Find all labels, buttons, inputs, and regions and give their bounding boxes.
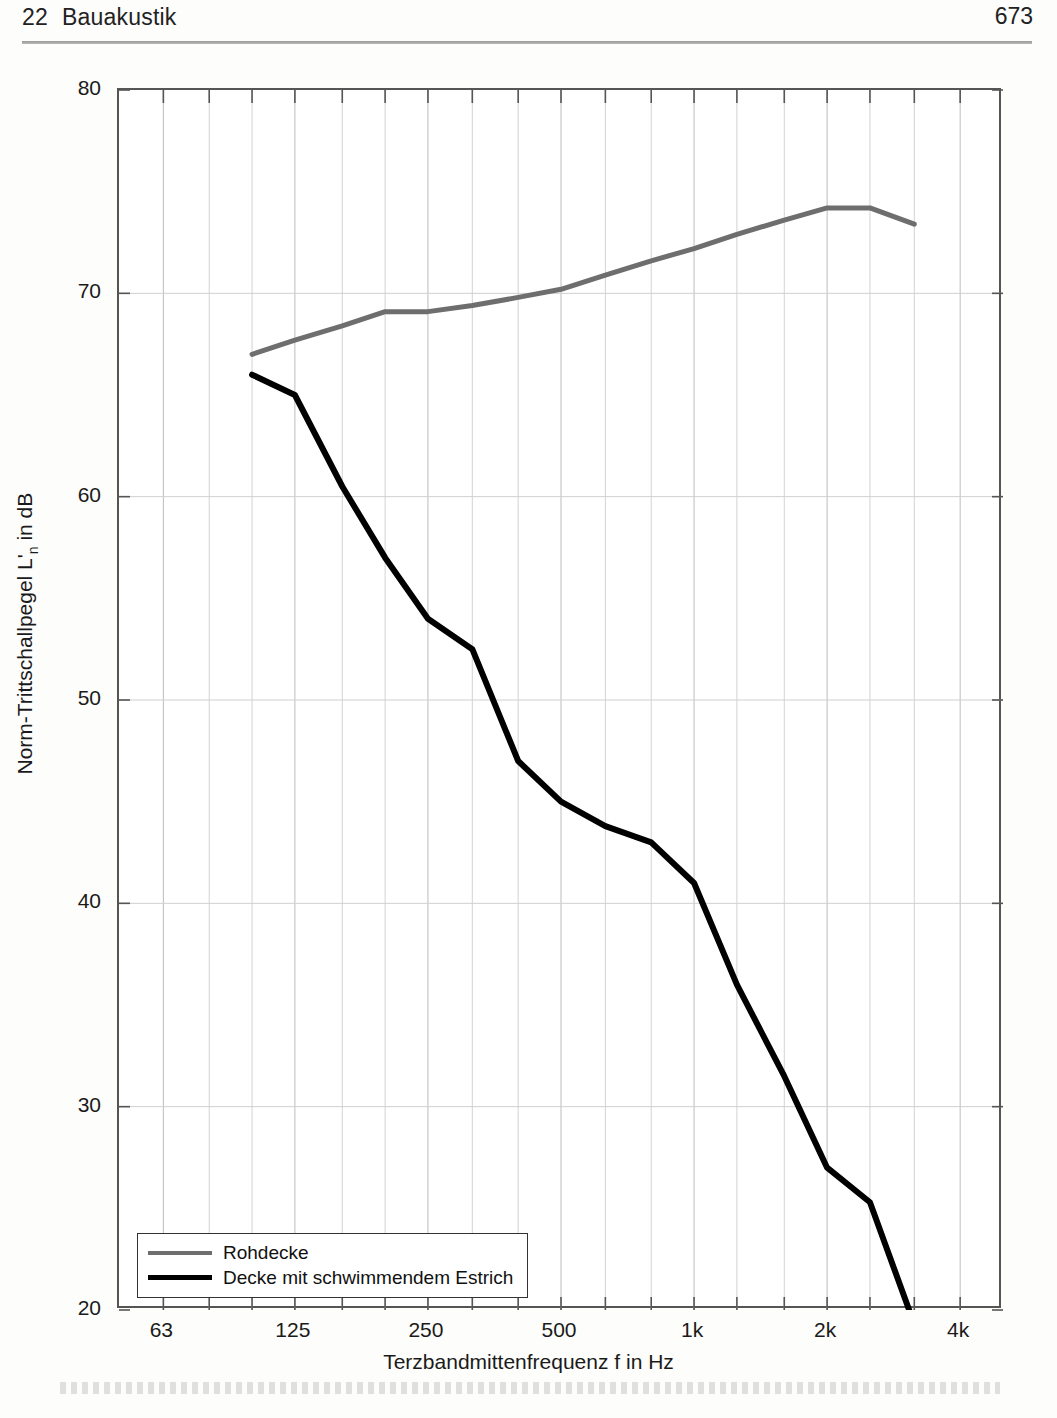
chapter-title: Bauakustik	[62, 4, 177, 30]
y-axis-title-subscript: n	[25, 546, 41, 554]
y-tick-label-30: 30	[78, 1093, 101, 1117]
y-tick-label-60: 60	[78, 483, 101, 507]
chapter-heading: 22Bauakustik	[22, 4, 177, 31]
legend-item-rohdecke: Rohdecke	[148, 1240, 513, 1265]
chart-legend: Rohdecke Decke mit schwimmendem Estrich	[137, 1233, 528, 1298]
y-tick-label-80: 80	[78, 76, 101, 100]
x-tick-label-1k: 1k	[681, 1318, 703, 1342]
x-tick-label-250: 250	[408, 1318, 443, 1342]
chart-curves	[119, 90, 1003, 1310]
legend-item-estrich: Decke mit schwimmendem Estrich	[148, 1265, 513, 1290]
x-axis-title: Terzbandmittenfrequenz f in Hz	[0, 1350, 1057, 1374]
y-axis-title-main: Norm-Trittschallpegel L'	[13, 554, 36, 774]
legend-label-estrich: Decke mit schwimmendem Estrich	[223, 1268, 513, 1287]
x-tick-label-500: 500	[541, 1318, 576, 1342]
page-number: 673	[995, 3, 1033, 30]
y-tick-label-20: 20	[78, 1296, 101, 1320]
x-tick-label-4k: 4k	[947, 1318, 969, 1342]
y-axis-title: Norm-Trittschallpegel L'n in dB	[13, 374, 40, 894]
x-tick-label-2k: 2k	[814, 1318, 836, 1342]
x-tick-label-63: 63	[150, 1318, 173, 1342]
y-tick-label-50: 50	[78, 686, 101, 710]
legend-label-rohdecke: Rohdecke	[223, 1243, 309, 1262]
figure-impact-sound-chart: Norm-Trittschallpegel L'n in dB Rohdecke…	[0, 60, 1057, 1390]
chapter-number: 22	[22, 4, 48, 30]
header-divider	[22, 41, 1032, 44]
y-tick-label-70: 70	[78, 279, 101, 303]
page-footer-textline	[60, 1382, 1000, 1394]
plot-area: Rohdecke Decke mit schwimmendem Estrich	[117, 88, 1001, 1308]
page: 22Bauakustik 673 Norm-Trittschallpegel L…	[0, 0, 1057, 1418]
legend-line-icon-black	[148, 1275, 212, 1280]
x-tick-label-125: 125	[275, 1318, 310, 1342]
legend-line-icon-gray	[148, 1251, 212, 1255]
y-axis-title-tail: in dB	[13, 493, 36, 547]
running-head: 22Bauakustik 673	[0, 0, 1057, 56]
y-tick-label-40: 40	[78, 889, 101, 913]
y-axis-labels: Norm-Trittschallpegel L'n in dB	[0, 60, 117, 1310]
